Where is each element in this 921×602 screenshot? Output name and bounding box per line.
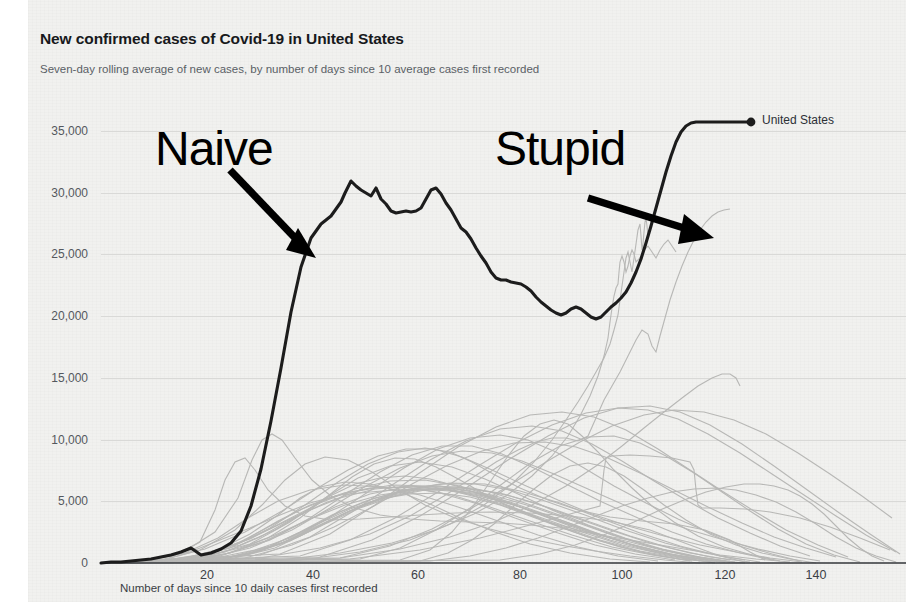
x-axis-title: Number of days since 10 daily cases firs… <box>120 582 378 594</box>
naive-arrow <box>230 170 316 258</box>
series-end-marker <box>747 118 756 127</box>
y-tick-20000: 20,000 <box>26 309 88 323</box>
annotation-stupid: Stupid <box>495 125 625 173</box>
y-tick-10000: 10,000 <box>26 433 88 447</box>
y-tick-25000: 25,000 <box>26 247 88 261</box>
x-tick-80: 80 <box>500 568 540 582</box>
stupid-arrow <box>588 198 714 244</box>
annotation-naive: Naive <box>155 125 273 173</box>
y-tick-35000: 35,000 <box>26 124 88 138</box>
x-tick-140: 140 <box>796 568 836 582</box>
x-tick-60: 60 <box>398 568 438 582</box>
y-tick-5000: 5,000 <box>26 494 88 508</box>
series-legend-label: United States <box>762 113 834 127</box>
x-tick-20: 20 <box>187 568 227 582</box>
y-tick-15000: 15,000 <box>26 371 88 385</box>
x-tick-100: 100 <box>602 568 642 582</box>
x-tick-120: 120 <box>705 568 745 582</box>
chart-page: New confirmed cases of Covid-19 in Unite… <box>0 0 921 602</box>
chart-plot-area <box>0 0 921 602</box>
y-tick-30000: 30,000 <box>26 186 88 200</box>
y-tick-0: 0 <box>26 556 88 570</box>
background-country-lines <box>101 209 900 563</box>
x-tick-40: 40 <box>293 568 333 582</box>
